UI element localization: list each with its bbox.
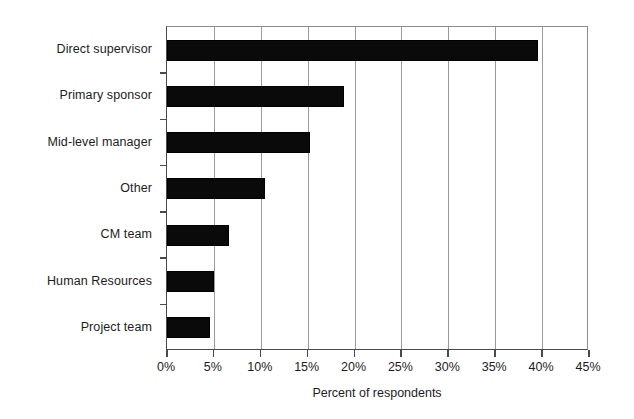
- category-axis-labels: Direct supervisorPrimary sponsorMid-leve…: [0, 26, 160, 350]
- bar-row: [167, 212, 588, 258]
- x-axis-tick: [260, 350, 262, 357]
- bar: [167, 40, 538, 61]
- bar-row: [167, 258, 588, 304]
- y-axis-tick: [160, 165, 166, 167]
- bar-row: [167, 120, 588, 166]
- bar-row: [167, 166, 588, 212]
- x-axis-tick: [213, 350, 215, 357]
- bar: [167, 225, 229, 246]
- x-axis-tick: [307, 350, 309, 357]
- bar-row: [167, 305, 588, 350]
- category-label: Primary sponsor: [0, 88, 152, 102]
- bar-chart: Direct supervisorPrimary sponsorMid-leve…: [0, 0, 634, 419]
- x-axis-tick: [447, 350, 449, 357]
- x-axis-tick: [354, 350, 356, 357]
- bar: [167, 271, 214, 292]
- category-label: Direct supervisor: [0, 42, 152, 56]
- bar: [167, 132, 310, 153]
- x-axis-tick: [166, 350, 168, 357]
- y-axis-tick: [160, 257, 166, 259]
- x-axis-tick: [494, 350, 496, 357]
- plot-area: [166, 26, 588, 350]
- category-label: Human Resources: [0, 274, 152, 288]
- bar-row: [167, 27, 588, 73]
- x-axis-tick: [541, 350, 543, 357]
- bar: [167, 178, 265, 199]
- bar-row: [167, 73, 588, 119]
- x-axis-tick-label: 45%: [558, 360, 618, 374]
- y-axis-tick: [160, 211, 166, 213]
- x-axis-title: Percent of respondents: [166, 386, 588, 400]
- y-axis-tick: [160, 72, 166, 74]
- category-label: CM team: [0, 227, 152, 241]
- category-label: Project team: [0, 320, 152, 334]
- y-axis-tick: [160, 304, 166, 306]
- bar: [167, 86, 344, 107]
- x-axis-tick: [588, 350, 590, 357]
- category-label: Other: [0, 181, 152, 195]
- bar: [167, 317, 210, 338]
- x-axis-tick: [400, 350, 402, 357]
- category-label: Mid-level manager: [0, 135, 152, 149]
- y-axis-tick: [160, 119, 166, 121]
